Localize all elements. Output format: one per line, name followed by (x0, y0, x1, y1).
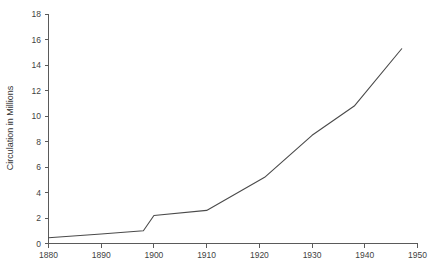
x-axis-tick-labels: 1880 1890 1900 1910 1920 1930 1940 1950 (39, 250, 427, 260)
data-series-line (49, 49, 402, 238)
y-axis-ticks (45, 14, 49, 243)
x-tick-label: 1920 (250, 250, 269, 260)
y-tick-label: 10 (32, 111, 42, 121)
y-tick-label: 18 (32, 9, 42, 19)
y-tick-label: 6 (36, 162, 41, 172)
chart-canvas: 0 2 4 6 8 10 12 14 16 18 1880 1890 1900 (0, 0, 434, 278)
y-tick-label: 16 (32, 35, 42, 45)
y-axis-tick-labels: 0 2 4 6 8 10 12 14 16 18 (32, 9, 42, 248)
line-chart-figure: 0 2 4 6 8 10 12 14 16 18 1880 1890 1900 (0, 0, 434, 278)
x-tick-label: 1880 (39, 250, 58, 260)
x-tick-label: 1950 (408, 250, 427, 260)
x-tick-label: 1900 (144, 250, 163, 260)
x-tick-label: 1890 (92, 250, 111, 260)
y-tick-label: 8 (36, 137, 41, 147)
x-axis-ticks (49, 244, 418, 248)
y-tick-label: 14 (32, 60, 42, 70)
y-tick-label: 4 (36, 188, 41, 198)
y-axis-title: Circulation in Millions (5, 85, 15, 170)
x-tick-label: 1930 (303, 250, 322, 260)
y-tick-label: 0 (36, 239, 41, 249)
x-tick-label: 1940 (355, 250, 374, 260)
x-tick-label: 1910 (197, 250, 216, 260)
y-tick-label: 2 (36, 213, 41, 223)
y-tick-label: 12 (32, 86, 42, 96)
